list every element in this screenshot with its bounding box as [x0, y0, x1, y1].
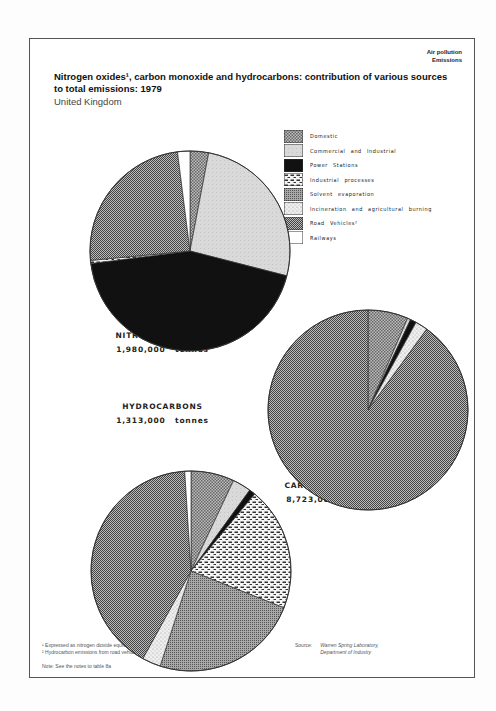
co-pie	[268, 310, 468, 510]
pie-slice	[90, 152, 190, 261]
hc-pie	[91, 471, 291, 671]
nox-pie	[90, 151, 290, 351]
pie-slice	[268, 310, 468, 510]
pie-charts	[0, 0, 496, 711]
